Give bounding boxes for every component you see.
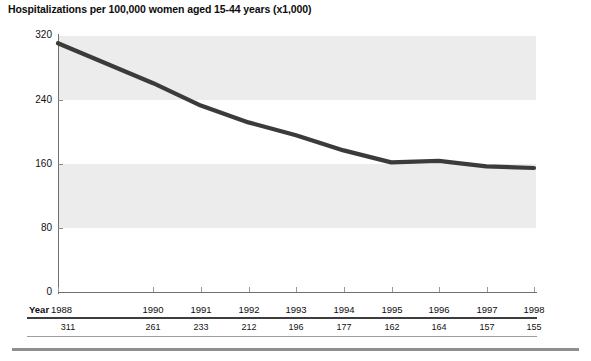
value-1994: 177 <box>336 322 351 332</box>
value-1998: 155 <box>526 322 541 332</box>
x-tick-mark-1996 <box>439 287 440 292</box>
x-category-1992: 1992 <box>238 304 259 315</box>
x-category-1996: 1996 <box>428 304 449 315</box>
value-1995: 162 <box>384 322 399 332</box>
y-tick-mark-80 <box>58 228 63 229</box>
background-band-upper <box>58 36 536 100</box>
table-separator-rule <box>27 317 537 319</box>
x-category-1991: 1991 <box>190 304 211 315</box>
x-tick-mark-1992 <box>249 287 250 292</box>
x-axis-caption: Year <box>29 304 49 315</box>
y-tick-label-80: 80 <box>18 223 52 233</box>
y-tick-label-320: 320 <box>18 30 52 40</box>
y-tick-mark-160 <box>58 164 63 165</box>
table-bottom-rule <box>27 336 537 337</box>
background-band-lower <box>58 164 536 228</box>
chart-title: Hospitalizations per 100,000 women aged … <box>8 3 311 15</box>
value-1988: 311 <box>61 322 75 332</box>
value-1992: 212 <box>241 322 256 332</box>
x-tick-mark-1991 <box>201 287 202 292</box>
value-1996: 164 <box>431 322 446 332</box>
x-tick-mark-1988 <box>58 287 59 292</box>
plot-area <box>58 36 536 292</box>
x-category-1997: 1997 <box>476 304 497 315</box>
y-tick-label-0: 0 <box>18 287 52 297</box>
x-category-1993: 1993 <box>285 304 306 315</box>
x-tick-mark-1997 <box>487 287 488 292</box>
y-tick-mark-240 <box>58 100 63 101</box>
x-tick-mark-1995 <box>392 287 393 292</box>
footer-rule <box>12 348 579 351</box>
x-category-1994: 1994 <box>333 304 354 315</box>
x-tick-mark-1998 <box>534 287 535 292</box>
x-tick-mark-1993 <box>296 287 297 292</box>
value-1990: 261 <box>145 322 160 332</box>
x-category-1988: 1988 <box>51 304 72 315</box>
x-tick-mark-1990 <box>153 287 154 292</box>
y-tick-label-160: 160 <box>18 159 52 169</box>
x-category-1995: 1995 <box>381 304 402 315</box>
value-1993: 196 <box>288 322 303 332</box>
value-1991: 233 <box>193 322 208 332</box>
x-tick-mark-1994 <box>344 287 345 292</box>
value-1997: 157 <box>479 322 494 332</box>
y-tick-label-240: 240 <box>18 95 52 105</box>
chart-container: Hospitalizations per 100,000 women aged … <box>0 0 591 361</box>
x-axis-line <box>58 292 537 293</box>
x-category-1998: 1998 <box>523 304 544 315</box>
x-category-1990: 1990 <box>142 304 163 315</box>
